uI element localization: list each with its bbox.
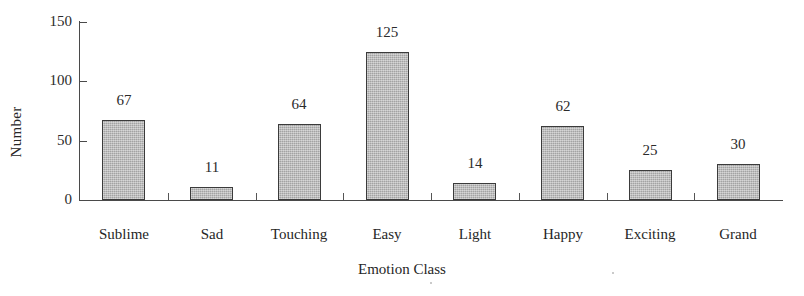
bar <box>453 183 496 200</box>
x-axis-tick <box>431 193 432 200</box>
y-axis-tick <box>80 81 87 82</box>
x-axis-tick <box>694 193 695 200</box>
y-axis-line <box>79 21 80 201</box>
scan-speck <box>430 282 432 284</box>
bar-value-label: 62 <box>523 98 603 115</box>
bar-value-label: 125 <box>347 24 427 41</box>
x-axis-tick <box>256 193 257 200</box>
x-axis-tick <box>343 193 344 200</box>
bar <box>190 187 233 200</box>
bar <box>366 52 409 200</box>
x-axis-title: Emotion Class <box>0 261 804 278</box>
y-axis-tick-label: 150 <box>10 13 72 30</box>
y-axis-tick-label: 0 <box>10 191 72 208</box>
scan-speck <box>612 272 614 274</box>
bar <box>717 164 760 200</box>
x-axis-line <box>79 200 783 201</box>
bar-value-label: 14 <box>435 155 515 172</box>
bar-chart: Number 050100150 67116412514622530 Subli… <box>0 0 804 296</box>
bar <box>278 124 321 200</box>
y-axis-tick <box>80 200 87 201</box>
bar-value-label: 11 <box>172 159 252 176</box>
bar <box>629 170 672 200</box>
x-axis-category-label: Grand <box>683 226 793 243</box>
bar-value-label: 64 <box>259 96 339 113</box>
y-axis-tick-label: 100 <box>10 72 72 89</box>
bar-value-label: 25 <box>610 142 690 159</box>
x-axis-tick <box>519 193 520 200</box>
bar-value-label: 67 <box>84 92 164 109</box>
bar-value-label: 30 <box>698 136 778 153</box>
y-axis-tick <box>80 22 87 23</box>
x-axis-tick <box>607 193 608 200</box>
y-axis-tick-label: 50 <box>10 132 72 149</box>
bar <box>541 126 584 200</box>
bar <box>102 120 145 200</box>
y-axis-tick <box>80 141 87 142</box>
x-axis-tick <box>168 193 169 200</box>
